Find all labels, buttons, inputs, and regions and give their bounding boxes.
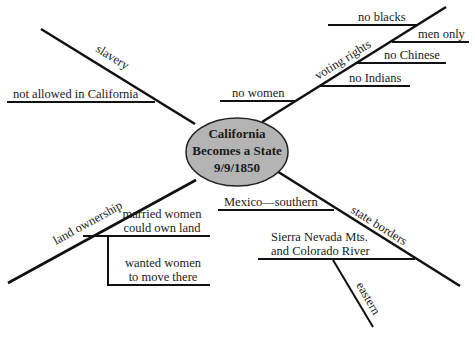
detail-text-wanted-women-1: wanted women <box>125 256 202 270</box>
detail-text-no-chinese: no Chinese <box>384 48 440 62</box>
branch-land-ownership: land ownership married women could own l… <box>8 180 210 285</box>
detail-text-mexico: Mexico—southern <box>224 195 318 209</box>
detail-text-married-women-2: could own land <box>123 221 201 235</box>
center-title-line1: California <box>208 126 266 141</box>
detail-text-not-allowed: not allowed in California <box>13 87 139 101</box>
center-node: California Becomes a State 9/9/1850 <box>186 118 288 186</box>
branch-voting-rights: voting rights no blacks men only no Chin… <box>220 7 469 122</box>
detail-text-married-women-1: married women <box>123 207 203 221</box>
branch-label-slavery: slavery <box>93 42 132 73</box>
detail-text-men-only: men only <box>418 27 466 41</box>
detail-text-no-blacks: no blacks <box>358 10 406 24</box>
branch-slavery: slavery not allowed in California <box>7 29 195 124</box>
spider-map-diagram: slavery not allowed in California voting… <box>0 0 475 340</box>
branch-state-borders: state borders Mexico—southern Sierra Nev… <box>218 168 460 327</box>
branch-line-state-borders <box>272 168 460 286</box>
detail-text-sierra-2: and Colorado River <box>271 244 370 258</box>
detail-text-wanted-women-2: to move there <box>129 270 198 284</box>
detail-text-sierra-1: Sierra Nevada Mts. <box>271 230 368 244</box>
sub-label-eastern: eastern <box>353 280 383 318</box>
center-date: 9/9/1850 <box>214 160 260 175</box>
detail-text-no-women: no women <box>232 86 285 100</box>
branch-line-slavery <box>41 29 195 124</box>
center-title-line2: Becomes a State <box>192 143 282 158</box>
detail-text-no-indians: no Indians <box>349 71 402 85</box>
